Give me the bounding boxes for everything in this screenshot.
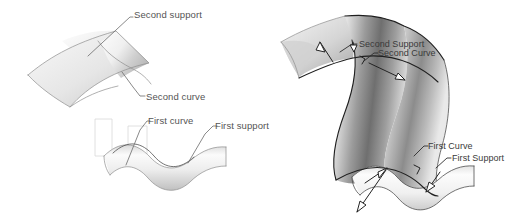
illustration-root: Second support Second curve First curve … bbox=[0, 0, 525, 221]
label-first-curve-right: First Curve bbox=[428, 141, 473, 151]
illustration-canvas: Second support Second curve First curve … bbox=[0, 0, 525, 221]
first-support-surface bbox=[95, 119, 226, 190]
right-figure: Second Support Second Curve First Curve … bbox=[281, 15, 505, 212]
label-first-support: First support bbox=[215, 120, 269, 131]
label-second-support: Second support bbox=[134, 9, 202, 20]
label-second-curve-right: Second Curve bbox=[378, 48, 436, 58]
second-support-surface bbox=[28, 31, 151, 107]
label-first-support-right: First Support bbox=[452, 153, 505, 163]
arrow-down-left-head bbox=[357, 201, 366, 212]
second-curve-leader bbox=[122, 72, 145, 96]
construction-plane-ghost bbox=[95, 119, 112, 156]
label-first-curve: First curve bbox=[148, 115, 193, 126]
label-second-curve: Second curve bbox=[146, 91, 205, 102]
left-figure: Second support Second curve First curve … bbox=[28, 9, 269, 190]
